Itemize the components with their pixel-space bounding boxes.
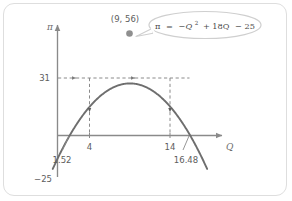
chart-stage: π Q (9, 56) 31 4 14 1.52 16.48 −25 π = −… (0, 0, 292, 201)
parabola-chart: π Q (9, 56) 31 4 14 1.52 16.48 −25 π = −… (0, 0, 292, 201)
equation-callout-tail (136, 29, 153, 37)
root-right-label: 16.48 (174, 155, 198, 165)
equation-term3: − 25 (235, 21, 255, 31)
equation-text: π = −Q 2 + 18Q − 25 (155, 17, 255, 30)
q-high-label: 14 (165, 142, 176, 152)
root-left-label: 1.52 (53, 155, 72, 165)
y-axis-label: π (46, 22, 54, 32)
equation-lhs: π (155, 21, 161, 31)
equation-exponent: 2 (195, 20, 199, 26)
equation-term1: −Q (179, 21, 193, 31)
vertex-marker-dot (126, 30, 133, 37)
x-axis-label: Q (226, 142, 234, 152)
y-intercept-label: −25 (34, 174, 52, 184)
q-low-label: 4 (87, 142, 92, 152)
vertex-label: (9, 56) (111, 14, 139, 24)
leader-root-right (183, 136, 189, 150)
leader-root-left (63, 136, 70, 150)
equation-term2: + 18Q (203, 21, 230, 31)
profit-level-label: 31 (39, 73, 50, 83)
equation-sign: = (166, 21, 173, 31)
